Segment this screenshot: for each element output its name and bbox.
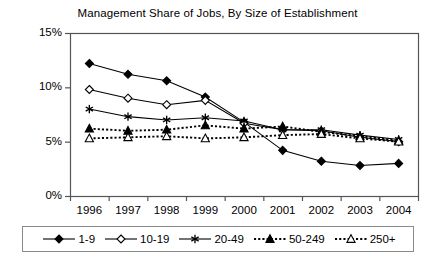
legend-marker-filled-triangle-icon [253,232,287,246]
x-axis-tick-label: 2000 [222,204,266,216]
legend-label: 50-249 [289,233,325,245]
x-axis-tick-label: 2003 [338,204,382,216]
legend-marker-open-triangle-icon [334,232,368,246]
x-axis-tick-label: 2001 [261,204,305,216]
x-axis-tick-label: 2004 [377,204,421,216]
legend-marker-asterisk-icon [178,232,212,246]
x-axis-tick-label: 1997 [106,204,150,216]
legend-label: 250+ [370,233,396,245]
legend-item-1-9: 1-9 [42,232,95,246]
x-axis-tick-label: 1996 [67,204,111,216]
legend-label: 10-19 [140,233,169,245]
y-axis-tick-label: 0% [18,189,62,201]
chart-figure: Management Share of Jobs, By Size of Est… [0,0,435,258]
x-axis-tick-label: 1999 [183,204,227,216]
series-1-9 [85,59,402,169]
legend-item-250+: 250+ [334,232,396,246]
legend-item-20-49: 20-49 [178,232,243,246]
legend-marker-filled-diamond-icon [42,232,76,246]
legend-label: 1-9 [78,233,95,245]
legend-item-50-249: 50-249 [253,232,325,246]
legend: 1-910-1920-4950-249250+ [22,226,414,252]
legend-marker-open-diamond-icon [104,232,138,246]
y-axis-tick-label: 10% [18,80,62,92]
legend-entries: 1-910-1920-4950-249250+ [23,227,415,251]
plot-area [0,0,435,258]
legend-label: 20-49 [214,233,243,245]
x-axis-tick-label: 1998 [145,204,189,216]
y-axis-tick-label: 15% [18,26,62,38]
x-axis-tick-label: 2002 [299,204,343,216]
y-axis-tick-label: 5% [18,135,62,147]
legend-item-10-19: 10-19 [104,232,169,246]
